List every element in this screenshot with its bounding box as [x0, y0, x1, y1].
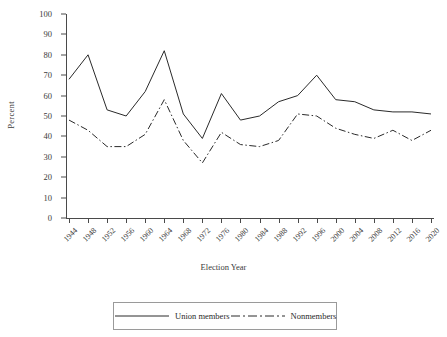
- x-tick-label: 1944: [62, 226, 80, 244]
- x-tick-label: 2012: [386, 226, 404, 244]
- x-tick-label: 1964: [157, 226, 175, 244]
- legend-label: Nonmembers: [291, 311, 337, 321]
- series-line-nonmembers: [69, 100, 431, 163]
- chart-legend: Union members Nonmembers: [113, 302, 337, 330]
- x-tick-mark: [260, 219, 261, 223]
- x-tick-label: 1992: [290, 226, 308, 244]
- y-tick-label: 90: [44, 29, 53, 39]
- y-tick-label: 100: [39, 9, 52, 19]
- x-tick-label: 1956: [119, 226, 137, 244]
- x-tick-mark: [107, 219, 108, 223]
- x-tick-label: 1988: [271, 226, 289, 244]
- y-tick-label: 80: [44, 50, 53, 60]
- x-tick-label: 1948: [81, 226, 99, 244]
- x-tick-mark: [164, 219, 165, 223]
- x-tick-mark: [355, 219, 356, 223]
- y-tick-label: 20: [44, 172, 53, 182]
- x-tick-label: 2004: [347, 226, 365, 244]
- x-tick-label: 1968: [176, 226, 194, 244]
- x-axis-line: [66, 218, 434, 219]
- series-lines: [66, 14, 434, 218]
- y-axis-tick-labels: 0102030405060708090100: [22, 0, 52, 230]
- legend-label: Union members: [175, 311, 230, 321]
- x-tick-mark: [202, 219, 203, 223]
- x-tick-label: 1984: [252, 226, 270, 244]
- legend-item-union-members: Union members: [114, 311, 230, 321]
- y-tick-label: 30: [44, 152, 53, 162]
- x-tick-mark: [393, 219, 394, 223]
- x-tick-mark: [279, 219, 280, 223]
- x-tick-mark: [336, 219, 337, 223]
- y-axis-title: Percent: [2, 0, 20, 230]
- x-tick-mark: [145, 219, 146, 223]
- y-tick-label: 60: [44, 91, 53, 101]
- legend-item-nonmembers: Nonmembers: [230, 311, 337, 321]
- x-tick-label: 1972: [195, 226, 213, 244]
- y-axis-title-text: Percent: [6, 101, 16, 129]
- legend-key-dashdot-icon: [230, 311, 286, 321]
- x-tick-mark: [374, 219, 375, 223]
- x-tick-mark: [240, 219, 241, 223]
- x-axis-title: Election Year: [0, 262, 447, 272]
- y-tick-label: 50: [44, 111, 53, 121]
- y-tick-label: 10: [44, 193, 53, 203]
- x-tick-mark: [221, 219, 222, 223]
- x-tick-mark: [412, 219, 413, 223]
- x-tick-mark: [69, 219, 70, 223]
- x-tick-label: 2016: [405, 226, 423, 244]
- x-tick-mark: [88, 219, 89, 223]
- x-tick-label: 2000: [328, 226, 346, 244]
- x-tick-mark: [431, 219, 432, 223]
- legend-key-solid-icon: [114, 311, 170, 321]
- x-tick-label: 2008: [367, 226, 385, 244]
- x-tick-mark: [317, 219, 318, 223]
- series-line-union-members: [69, 51, 431, 139]
- x-tick-label: 1952: [100, 226, 118, 244]
- y-tick-label: 0: [48, 213, 52, 223]
- x-tick-label: 2020: [424, 226, 442, 244]
- x-tick-label: 1980: [233, 226, 251, 244]
- chart-container: Percent 0102030405060708090100 194419481…: [0, 0, 447, 337]
- x-tick-mark: [298, 219, 299, 223]
- y-tick-label: 70: [44, 70, 53, 80]
- x-tick-label: 1960: [138, 226, 156, 244]
- x-tick-mark: [126, 219, 127, 223]
- plot-area: [66, 14, 434, 218]
- x-tick-mark: [183, 219, 184, 223]
- x-tick-label: 1996: [309, 226, 327, 244]
- x-tick-label: 1976: [214, 226, 232, 244]
- y-tick-label: 40: [44, 131, 53, 141]
